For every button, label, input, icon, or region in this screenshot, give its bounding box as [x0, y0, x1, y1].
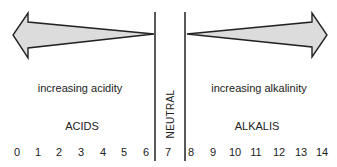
alkalinity-arrow: [187, 13, 327, 57]
ph-11: 11: [250, 146, 261, 158]
ph-12: 12: [273, 146, 285, 158]
ph-0: 0: [14, 146, 20, 158]
alkalis-label: ALKALIS: [235, 120, 280, 132]
ph-5: 5: [121, 146, 127, 158]
ph-2: 2: [56, 146, 62, 158]
ph-8: 8: [188, 146, 194, 158]
acids-label: ACIDS: [65, 120, 99, 132]
increasing-alkalinity-label: increasing alkalinity: [211, 82, 306, 94]
neutral-label: NEUTRAL: [165, 90, 176, 139]
ph-4: 4: [100, 146, 106, 158]
acidity-arrow: [13, 13, 154, 58]
ph-7: 7: [165, 146, 171, 158]
ph-scale-diagram: increasing acidity increasing alkalinity…: [0, 0, 337, 167]
ph-6: 6: [143, 146, 149, 158]
ph-10: 10: [229, 146, 241, 158]
ph-13: 13: [295, 146, 307, 158]
ph-3: 3: [78, 146, 84, 158]
ph-1: 1: [35, 146, 41, 158]
ph-14: 14: [316, 146, 328, 158]
increasing-acidity-label: increasing acidity: [38, 82, 122, 94]
ph-9: 9: [210, 146, 216, 158]
